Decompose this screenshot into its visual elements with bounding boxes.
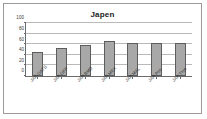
bar-series — [26, 23, 192, 76]
y-tick-label-0: 0 — [21, 69, 24, 74]
chart-title: Japen — [4, 10, 201, 19]
y-tick-label-40: 40 — [19, 48, 24, 53]
bar-slot — [121, 23, 145, 76]
bar-slot — [145, 23, 169, 76]
bar-slot — [168, 23, 192, 76]
y-tick-label-20: 20 — [19, 59, 24, 64]
y-tick-label-80: 80 — [19, 27, 24, 32]
plot-area: 020406080100 — [25, 23, 192, 77]
bar-slot — [97, 23, 121, 76]
y-tick-label-100: 100 — [16, 16, 24, 21]
chart-frame: Japen 020406080100 JAP-OATSJAP-OFFJAP-BM… — [3, 3, 202, 114]
x-axis-tick-labels: JAP-OATSJAP-OFFJAP-BMDJAP-MEXJAP-MALJAP-… — [25, 79, 191, 119]
bar-slot — [73, 23, 97, 76]
y-tick-label-60: 60 — [19, 37, 24, 42]
